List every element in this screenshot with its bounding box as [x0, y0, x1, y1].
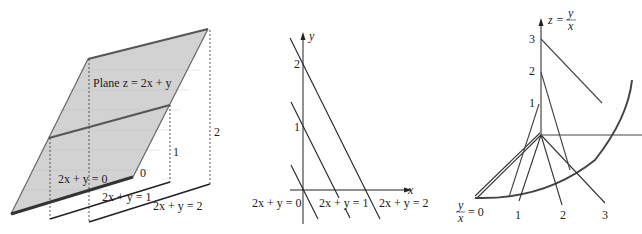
lifted-line-1 — [509, 104, 539, 197]
height-tick-2: 2 — [529, 64, 535, 78]
height-label-2: 2 — [214, 125, 220, 139]
tick-label-2: 2 — [294, 57, 300, 71]
tick-label-1: 1 — [294, 120, 300, 134]
level-label-0: 2x + y = 0 — [58, 172, 108, 186]
height-tick-3: 3 — [529, 32, 535, 46]
left-figure-plane: Plane z = 2x + y 2x + y = 0 2x + y = 1 2… — [11, 29, 220, 222]
base-label-0-den: x — [457, 211, 464, 225]
contour-line-0 — [291, 165, 318, 219]
right-figure-surface: z = y x 3 2 1 1 2 3 y x = 0 — [456, 6, 642, 225]
contour-label-2: 2x + y = 2 — [379, 196, 429, 210]
z-axis-label-den: x — [567, 19, 574, 33]
lifted-line-3 — [541, 39, 602, 103]
base-label-3: 3 — [602, 208, 608, 222]
y-axis-arrow-icon — [301, 32, 306, 40]
height-tick-1: 1 — [529, 96, 535, 110]
contour-label-1: 2x + y = 1 — [319, 196, 369, 210]
contour-label-0: 2x + y = 0 — [252, 196, 302, 210]
middle-figure-contours: y x 2 1 2x + y = 0 2x + y = 1 2x + y = 2 — [252, 29, 429, 224]
boundary-arc — [475, 80, 632, 198]
contour-line-1 — [291, 102, 339, 198]
level-label-1: 2x + y = 1 — [102, 190, 152, 204]
y-axis-label: y — [308, 29, 315, 43]
lifted-line-2 — [541, 72, 570, 170]
base-label-2: 2 — [560, 208, 566, 222]
level-label-2: 2x + y = 2 — [153, 199, 203, 213]
base-label-1: 1 — [515, 208, 521, 222]
base-label-0-rhs: = 0 — [468, 205, 484, 219]
z-axis-label-lhs: z = — [547, 13, 564, 27]
height-label-1: 1 — [173, 145, 179, 159]
height-label-0: 0 — [140, 166, 146, 180]
z-axis-label-num: y — [567, 6, 574, 20]
figure-canvas: Plane z = 2x + y 2x + y = 0 2x + y = 1 2… — [0, 0, 642, 234]
plane-label: Plane z = 2x + y — [93, 76, 172, 90]
base-label-0-num: y — [457, 198, 464, 212]
x-axis-label: x — [407, 183, 414, 197]
z-axis-arrow-icon — [539, 18, 544, 26]
